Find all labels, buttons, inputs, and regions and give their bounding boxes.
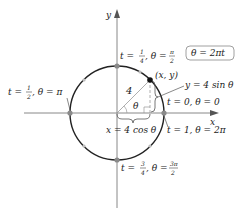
- parametric-circle-diagram: x y 4 θ (x, y) t = 1 4 , θ = π 2 θ = 2πt…: [0, 0, 243, 216]
- leader-y-expr: [158, 86, 184, 97]
- svg-text:3: 3: [141, 160, 145, 167]
- svg-text:4: 4: [140, 169, 145, 176]
- label-top: t = 1 4 , θ = π 2: [120, 48, 175, 64]
- leader-right-end: [164, 116, 168, 127]
- angle-arc: [124, 106, 127, 113]
- svg-text:t =: t =: [8, 87, 22, 97]
- point-xy: [147, 77, 153, 83]
- svg-text:t =: t =: [121, 163, 135, 173]
- y-axis-label: y: [105, 10, 112, 20]
- svg-text:1: 1: [140, 48, 144, 55]
- marker-right: [161, 110, 166, 115]
- svg-text:1: 1: [27, 84, 31, 91]
- x-brace: [117, 114, 150, 123]
- label-right-end: t = 1, θ = 2π: [167, 125, 227, 135]
- point-label: (x, y): [155, 70, 178, 80]
- equation-text: θ = 2πt: [191, 48, 225, 58]
- y-axis-arrow-icon: [114, 9, 120, 18]
- x-axis-arrow-icon: [210, 110, 219, 116]
- marker-minor: [138, 70, 141, 73]
- leader-left: [67, 98, 70, 110]
- marker-minor: [148, 144, 151, 147]
- marker-bottom: [114, 157, 119, 162]
- marker-minor: [82, 144, 85, 147]
- svg-text:2: 2: [170, 169, 175, 176]
- svg-text:t =: t =: [120, 51, 134, 61]
- svg-text:, θ =: , θ =: [145, 51, 167, 61]
- svg-text:, θ =: , θ =: [146, 163, 168, 173]
- right-angle-mark: [144, 107, 150, 113]
- svg-text:2: 2: [169, 57, 174, 64]
- svg-text:4: 4: [139, 57, 144, 64]
- label-right-start: t = 0, θ = 0: [167, 97, 220, 107]
- label-bottom: t = 3 4 , θ = 3π 2: [121, 160, 179, 176]
- x-expression: x = 4 cos θ: [106, 125, 157, 135]
- angle-label: θ: [133, 101, 139, 111]
- y-expression: y = 4 sin θ: [184, 80, 234, 90]
- label-left: t = 1 2 , θ = π: [8, 84, 63, 100]
- marker-top: [114, 63, 119, 68]
- radius-label: 4: [125, 85, 132, 96]
- marker-left: [67, 110, 72, 115]
- marker-minor: [82, 78, 85, 81]
- svg-text:2: 2: [26, 93, 31, 100]
- svg-text:, θ = π: , θ = π: [32, 87, 63, 97]
- svg-text:π: π: [169, 48, 175, 55]
- svg-text:3π: 3π: [170, 160, 179, 167]
